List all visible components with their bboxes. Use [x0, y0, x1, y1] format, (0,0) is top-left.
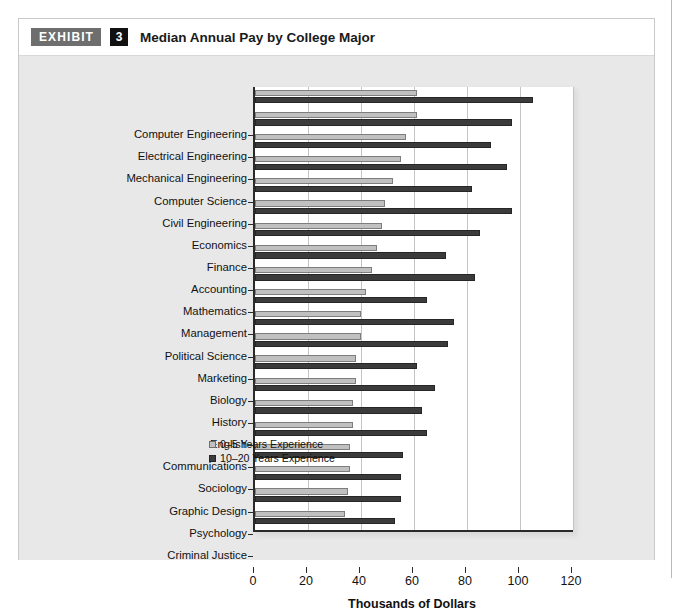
bar-series-2: [255, 297, 427, 303]
gridline-120: [573, 87, 574, 530]
page-right-rule: [671, 0, 672, 578]
bar-series-1: [255, 311, 361, 317]
bar-series-2: [255, 385, 435, 391]
legend-swatch-icon-series-1: [209, 441, 216, 448]
y-axis-label: Sociology: [19, 483, 253, 494]
y-axis-label: History: [19, 417, 253, 428]
bar-series-1: [255, 400, 353, 406]
x-axis-title: Thousands of Dollars: [253, 597, 571, 611]
x-axis-tick-20: [306, 567, 307, 573]
bar-series-2: [255, 274, 475, 280]
x-axis-label-80: 80: [458, 575, 472, 588]
y-axis-label: Mechanical Engineering: [19, 173, 253, 184]
bar-series-1: [255, 488, 348, 494]
legend-label-series-1: 0–5 Years Experience: [220, 438, 323, 451]
bar-series-2: [255, 319, 454, 325]
y-axis-label: Finance: [19, 262, 253, 273]
x-axis-label-100: 100: [508, 575, 529, 588]
exhibit-container: EXHIBIT 3 Median Annual Pay by College M…: [18, 18, 655, 560]
y-axis-tick: [248, 556, 253, 557]
y-axis-label: Civil Engineering: [19, 218, 253, 229]
bar-series-2: [255, 430, 427, 436]
x-axis-tick-120: [571, 567, 572, 573]
bar-row: [255, 286, 573, 308]
y-axis-label: Management: [19, 328, 253, 339]
bar-row: [255, 331, 573, 353]
y-axis-label: Computer Science: [19, 196, 253, 207]
bar-series-1: [255, 156, 401, 162]
x-axis-tick-0: [253, 567, 254, 573]
bar-series-2: [255, 186, 472, 192]
bar-series-2: [255, 341, 448, 347]
bar-series-2: [255, 363, 417, 369]
legend-item-series-1: 0–5 Years Experience: [209, 438, 335, 451]
bar-series-1: [255, 378, 356, 384]
exhibit-tag-label: EXHIBIT: [31, 28, 101, 46]
bar-series-1: [255, 178, 393, 184]
bar-series-2: [255, 496, 401, 502]
x-axis-label-120: 120: [561, 575, 582, 588]
bar-series-1: [255, 466, 350, 472]
bar-series-1: [255, 200, 385, 206]
x-axis-label-0: 0: [250, 575, 257, 588]
bar-row: [255, 220, 573, 242]
bar-row: [255, 486, 573, 508]
exhibit-number-badge: 3: [110, 28, 128, 46]
bar-row: [255, 87, 573, 109]
bar-series-1: [255, 90, 417, 96]
exhibit-title: Median Annual Pay by College Major: [140, 30, 375, 45]
bar-series-1: [255, 245, 377, 251]
bar-series-2: [255, 407, 422, 413]
y-axis-label: Electrical Engineering: [19, 151, 253, 162]
y-axis-label: Biology: [19, 395, 253, 406]
bar-row: [255, 397, 573, 419]
y-axis-label: Economics: [19, 240, 253, 251]
y-axis-label: Mathematics: [19, 306, 253, 317]
bar-row: [255, 109, 573, 131]
bar-row: [255, 176, 573, 198]
bar-series-1: [255, 267, 372, 273]
y-axis-label: Psychology: [19, 528, 253, 539]
bar-series-1: [255, 112, 417, 118]
y-axis-label: Graphic Design: [19, 506, 253, 517]
bar-row: [255, 264, 573, 286]
legend-label-series-2: 10–20 Years Experience: [220, 452, 335, 465]
bar-series-1: [255, 223, 382, 229]
bar-series-1: [255, 511, 345, 517]
bar-row: [255, 309, 573, 331]
bar-row: [255, 242, 573, 264]
x-axis-label-40: 40: [352, 575, 366, 588]
bar-series-1: [255, 422, 353, 428]
bar-series-2: [255, 252, 446, 258]
bar-series-1: [255, 355, 356, 361]
bar-series-2: [255, 474, 401, 480]
bar-series-2: [255, 230, 480, 236]
x-axis-tick-80: [465, 567, 466, 573]
chart-region: Computer EngineeringElectrical Engineeri…: [19, 56, 654, 560]
y-axis-label: Criminal Justice: [19, 550, 253, 561]
bar-series-2: [255, 518, 395, 524]
bar-row: [255, 353, 573, 375]
bar-series-1: [255, 289, 366, 295]
x-axis-label-60: 60: [405, 575, 419, 588]
y-axis-labels: Computer EngineeringElectrical Engineeri…: [19, 124, 253, 567]
bar-series-2: [255, 142, 491, 148]
exhibit-header: EXHIBIT 3 Median Annual Pay by College M…: [19, 19, 654, 56]
bar-row: [255, 508, 573, 530]
bar-series-2: [255, 164, 507, 170]
chart-legend: 0–5 Years Experience 10–20 Years Experie…: [209, 438, 335, 466]
legend-item-series-2: 10–20 Years Experience: [209, 452, 335, 465]
bar-series-2: [255, 119, 512, 125]
legend-swatch-icon-series-2: [209, 455, 216, 462]
x-axis-tick-100: [518, 567, 519, 573]
bar-row: [255, 198, 573, 220]
bar-row: [255, 464, 573, 486]
y-axis-label: Accounting: [19, 284, 253, 295]
bar-row: [255, 131, 573, 153]
x-axis-label-20: 20: [299, 575, 313, 588]
bar-row: [255, 375, 573, 397]
y-axis-tick: [248, 534, 253, 535]
bar-series-1: [255, 333, 361, 339]
y-axis-label: Marketing: [19, 373, 253, 384]
